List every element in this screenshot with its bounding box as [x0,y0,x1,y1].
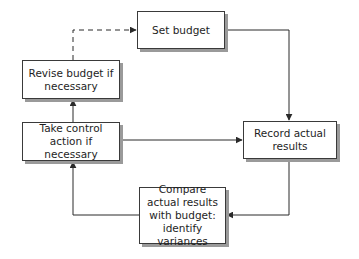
node-set-budget: Set budget [137,11,225,49]
edge-set-to-record [225,30,289,120]
node-label: Set budget [152,24,210,37]
node-revise-budget: Revise budget if necessary [22,60,120,99]
node-label: Record actual results [248,127,332,153]
edge-compare-to-control [73,162,139,215]
edge-record-to-compare [227,159,289,215]
node-label: Revise budget if necessary [27,67,115,93]
node-label: Compare actual results with budget: iden… [144,183,221,248]
node-take-control-action: Take control action if necessary [22,122,120,161]
node-record-actual-results: Record actual results [243,121,337,159]
edge-revise-to-set-dashed [73,30,136,60]
node-compare-actual-results: Compare actual results with budget: iden… [139,187,226,244]
node-label: Take control action if necessary [27,122,115,161]
